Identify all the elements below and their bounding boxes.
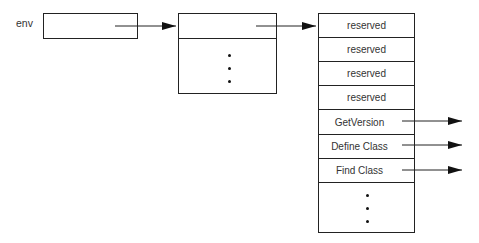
arrows-layer [0, 0, 479, 243]
